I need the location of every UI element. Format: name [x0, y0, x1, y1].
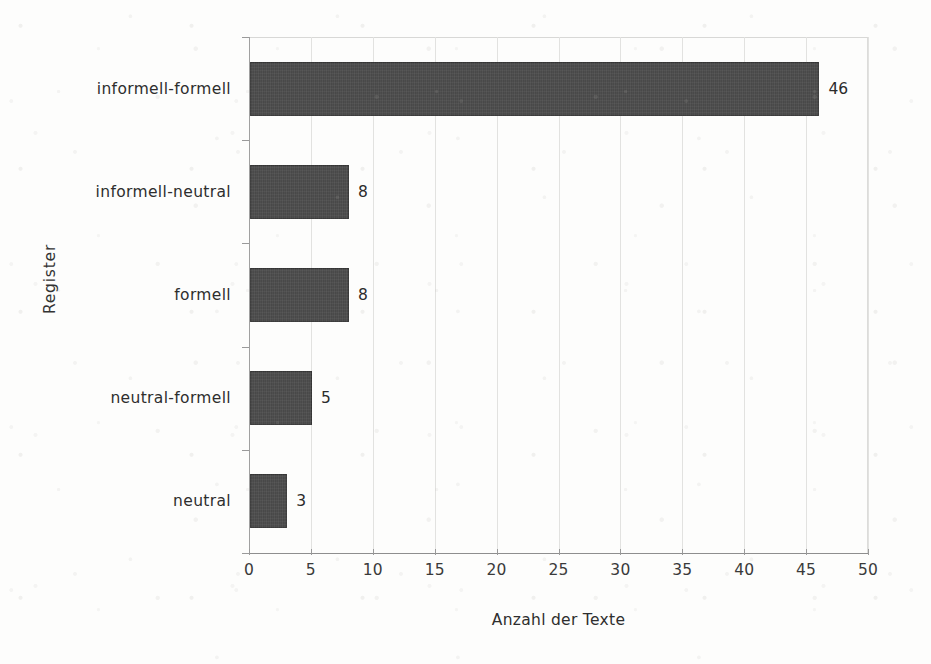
bar-value-label: 8: [358, 165, 368, 219]
bar-value-label: 5: [321, 371, 331, 425]
bar-row: informell-neutral8: [0, 140, 931, 243]
y-axis-category-label: informell-formell: [0, 37, 231, 140]
x-axis-tick-label-10: 10: [343, 561, 403, 579]
bar-row: informell-formell46: [0, 37, 931, 140]
y-axis-title: Register: [41, 219, 59, 339]
y-axis-tick-5: [242, 553, 249, 554]
x-axis-tick-label-5: 5: [281, 561, 341, 579]
bar[interactable]: [250, 165, 349, 219]
x-axis-tick-label-35: 35: [652, 561, 712, 579]
y-axis-category-label: formell: [0, 243, 231, 346]
bar-value-label: 46: [828, 62, 848, 116]
y-axis-category-label: neutral: [0, 450, 231, 553]
x-axis-tick-label-0: 0: [219, 561, 279, 579]
y-axis-category-label: informell-neutral: [0, 140, 231, 243]
x-axis-title: Anzahl der Texte: [249, 611, 868, 629]
x-axis-tick-label-25: 25: [529, 561, 589, 579]
bar[interactable]: [250, 62, 819, 116]
x-axis-tick-label-15: 15: [405, 561, 465, 579]
bar-value-label: 8: [358, 268, 368, 322]
bar-chart-figure: 05101520253035404550 informell-formell46…: [0, 0, 931, 664]
bar[interactable]: [250, 268, 349, 322]
bar-value-label: 3: [296, 474, 306, 528]
y-axis-category-label: neutral-formell: [0, 347, 231, 450]
x-axis-tick-label-50: 50: [838, 561, 898, 579]
bar[interactable]: [250, 474, 287, 528]
bar-row: neutral-formell5: [0, 347, 931, 450]
bar-row: formell8: [0, 243, 931, 346]
bar-row: neutral3: [0, 450, 931, 553]
bar[interactable]: [250, 371, 312, 425]
x-axis-tick-label-20: 20: [467, 561, 527, 579]
x-axis-tick-label-45: 45: [776, 561, 836, 579]
x-axis-tick-label-40: 40: [714, 561, 774, 579]
x-axis-tick-label-30: 30: [590, 561, 650, 579]
